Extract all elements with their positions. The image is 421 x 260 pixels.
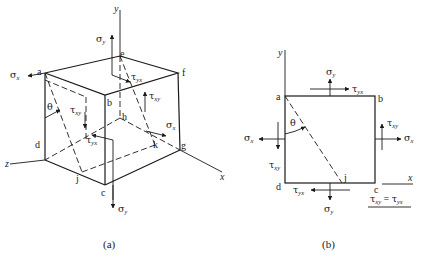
x-axis-label-b: x <box>407 172 413 183</box>
tau-xy-left-label-a: τxy <box>70 104 81 116</box>
tau-yx-top-label-b: τyx <box>352 83 363 95</box>
y-axis-label-b: y <box>277 47 283 58</box>
x-axis-a <box>180 150 222 172</box>
edge-dc <box>45 160 105 185</box>
sigma-y-bottom-label-b: σy <box>324 203 334 215</box>
theta-label-b: θ <box>290 117 296 128</box>
tau-xy-right-label-b: τxy <box>387 117 398 129</box>
caption-b: (b) <box>322 238 335 251</box>
y-axis-label-a: y <box>113 3 119 14</box>
vertex-j-a: j <box>75 173 79 184</box>
sigma-x-left-label-b: σx <box>244 132 254 144</box>
vertex-d-b: d <box>276 181 281 192</box>
sigma-x-left-label-a: σx <box>10 69 20 81</box>
vertex-e-a: e <box>120 48 125 59</box>
stress-element-figure: y x z a b c d e f g h j k θ σx σy τyx τx… <box>0 0 421 260</box>
figure-a-cube: y x z a b c d e f g h j k θ σx σy τyx τx… <box>4 3 225 251</box>
vertex-k-a: k <box>153 139 158 150</box>
vertex-b-b: b <box>378 93 383 104</box>
sigma-y-bottom-label-a: σy <box>118 203 128 215</box>
vertex-b-a: b <box>107 97 112 108</box>
x-axis-label-a: x <box>219 171 225 182</box>
vertex-f-a: f <box>182 67 186 78</box>
theta-label-a: θ <box>47 101 53 112</box>
edge-cg <box>105 150 180 185</box>
inner-dash-top <box>45 80 86 97</box>
plane-aj-b <box>285 96 342 183</box>
vertex-a-b: a <box>276 91 281 102</box>
sigma-x-right-label-b: σx <box>404 132 414 144</box>
edge-fg <box>178 73 180 150</box>
tau-yx-bottom-label-b: τyx <box>293 184 304 196</box>
tau-yx-top-label-a: τyx <box>131 71 142 83</box>
vertex-h-a: h <box>122 111 127 122</box>
tau-xy-right-label-a: τxy <box>149 90 160 102</box>
top-face <box>45 56 178 95</box>
element-square <box>285 96 375 183</box>
shear-equality-equation: τxy = τyx <box>370 193 403 205</box>
sigma-y-top-label-a: σy <box>96 33 106 45</box>
figure-b-square: y a b c d j θ σy τyx τxy σx σx τxy τyx σ… <box>244 47 414 251</box>
z-axis-a <box>10 160 45 164</box>
vertex-d-a: d <box>35 139 40 150</box>
vertex-g-a: g <box>181 140 186 151</box>
sigma-x-right-label-a: σx <box>166 119 176 131</box>
z-axis-label-a: z <box>4 158 9 169</box>
vertex-j-b: j <box>343 172 347 183</box>
theta-arc-b <box>285 127 305 134</box>
caption-a: (a) <box>103 238 116 251</box>
vertex-c-a: c <box>101 187 106 198</box>
plane-jk <box>82 145 155 172</box>
vertex-a-a: a <box>37 66 42 77</box>
tau-xy-left-label-b: τxy <box>269 159 280 171</box>
sigma-y-top-label-b: σy <box>326 66 336 78</box>
